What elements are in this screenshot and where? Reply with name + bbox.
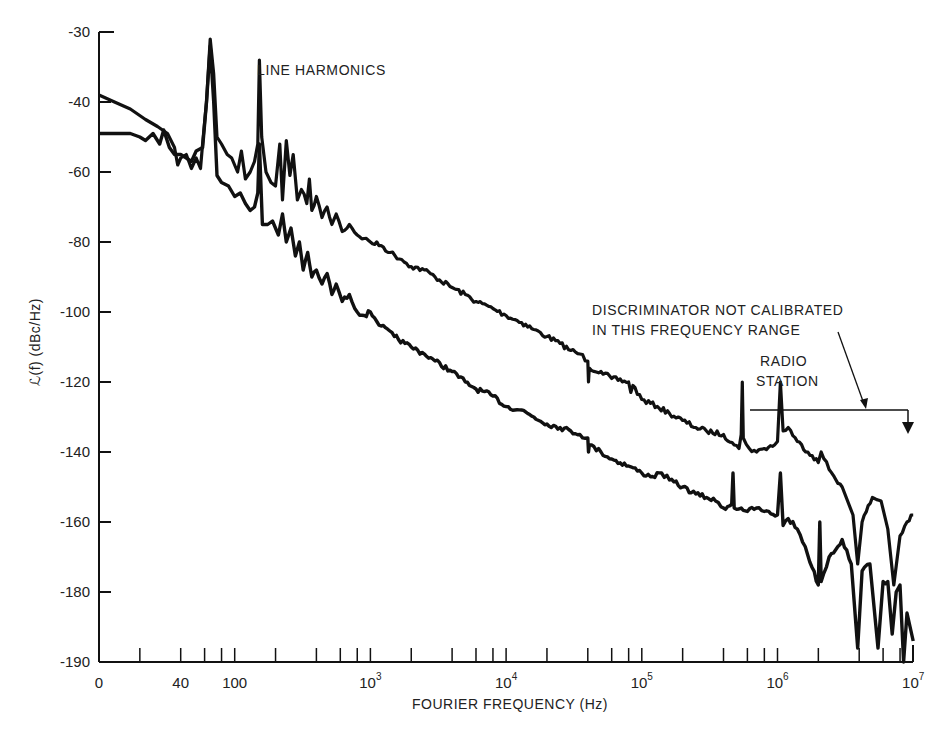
x-tick-exponent: 4 [512, 671, 518, 682]
y-tick-label: -140 [60, 443, 90, 460]
x-tick-label: 105 [631, 671, 654, 691]
y-tick-label: -80 [68, 233, 90, 250]
x-tick-base: 100 [222, 674, 247, 691]
x-tick-base: 10 [902, 674, 919, 691]
x-ticks: 040100103104105106107 [95, 648, 925, 691]
annotation-discriminator-line-2: IN THIS FREQUENCY RANGE [592, 322, 801, 338]
x-tick-base: 40 [172, 674, 189, 691]
annotation-line-harmonics: LINE HARMONICS [257, 62, 386, 78]
x-tick-label: 0 [95, 674, 103, 691]
y-tick-label: -120 [60, 373, 90, 390]
discriminator-pointer-arrow [838, 332, 864, 404]
y-tick-label: -190 [60, 653, 90, 670]
annotations: LINE HARMONICS DISCRIMINATOR NOT CALIBRA… [257, 62, 914, 434]
x-tick-exponent: 5 [647, 671, 653, 682]
x-tick-base: 10 [495, 674, 512, 691]
x-tick-base: 10 [631, 674, 648, 691]
annotation-radio-station-line-2: STATION [756, 373, 819, 389]
y-tick-label: -60 [68, 163, 90, 180]
x-tick-label: 104 [495, 671, 518, 691]
y-tick-label: -30 [68, 23, 90, 40]
x-tick-label: 40 [172, 674, 189, 691]
y-axis-title: ℒ(f) (dBc/Hz) [27, 298, 43, 386]
x-tick-base: 0 [95, 674, 103, 691]
pointer-arrowhead-icon [860, 398, 868, 409]
y-tick-label: -160 [60, 513, 90, 530]
x-tick-label: 100 [222, 674, 247, 691]
x-axis-title: FOURIER FREQUENCY (Hz) [412, 696, 608, 712]
x-tick-label: 106 [766, 671, 789, 691]
y-tick-label: -40 [68, 93, 90, 110]
x-tick-exponent: 3 [376, 671, 382, 682]
x-tick-label: 103 [359, 671, 382, 691]
x-tick-label: 107 [902, 671, 925, 691]
x-tick-exponent: 6 [783, 671, 789, 682]
x-tick-base: 10 [359, 674, 376, 691]
curves-layer [99, 39, 913, 662]
phase-noise-chart: -30-40-60-80-100-120-140-160-180-190 040… [0, 0, 946, 738]
y-tick-label: -100 [60, 303, 90, 320]
annotation-discriminator-line-1: DISCRIMINATOR NOT CALIBRATED [592, 302, 843, 318]
y-ticks: -30-40-60-80-100-120-140-160-180-190 [60, 23, 111, 670]
x-tick-exponent: 7 [919, 671, 925, 682]
y-tick-label: -180 [60, 583, 90, 600]
down-arrow-icon [902, 422, 914, 434]
annotation-radio-station-line-1: RADIO [760, 353, 807, 369]
x-tick-base: 10 [766, 674, 783, 691]
